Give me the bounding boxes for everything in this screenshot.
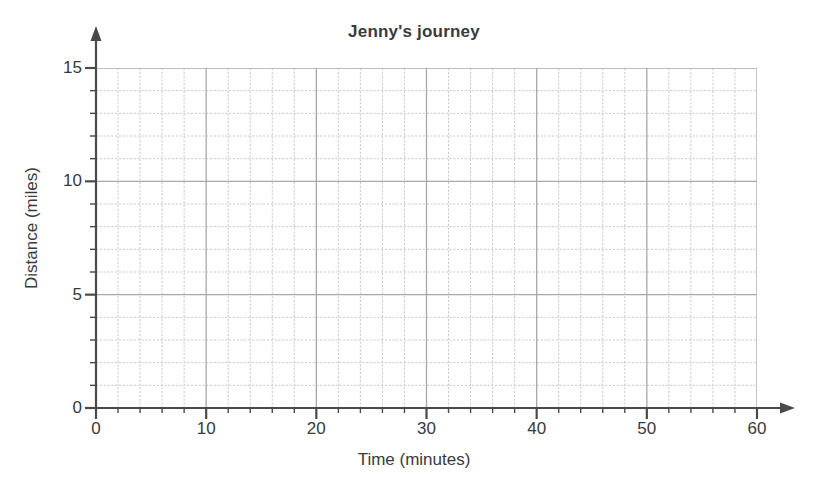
plot-area — [96, 68, 757, 408]
y-axis-title: Distance (miles) — [22, 138, 42, 318]
grid-lines — [96, 68, 757, 408]
x-tick-label: 10 — [176, 419, 236, 439]
chart-container: Jenny's journey 051015 0102030405060 Tim… — [0, 0, 828, 503]
x-tick-label: 40 — [507, 419, 567, 439]
x-tick-label: 20 — [286, 419, 346, 439]
x-tick-label: 0 — [66, 419, 126, 439]
x-tick-label: 30 — [397, 419, 457, 439]
x-axis-title: Time (minutes) — [0, 450, 828, 470]
y-tick-label: 15 — [22, 58, 82, 78]
x-tick-label: 60 — [727, 419, 787, 439]
x-tick-label: 50 — [617, 419, 677, 439]
chart-title: Jenny's journey — [0, 22, 828, 42]
y-tick-label: 0 — [22, 398, 82, 418]
